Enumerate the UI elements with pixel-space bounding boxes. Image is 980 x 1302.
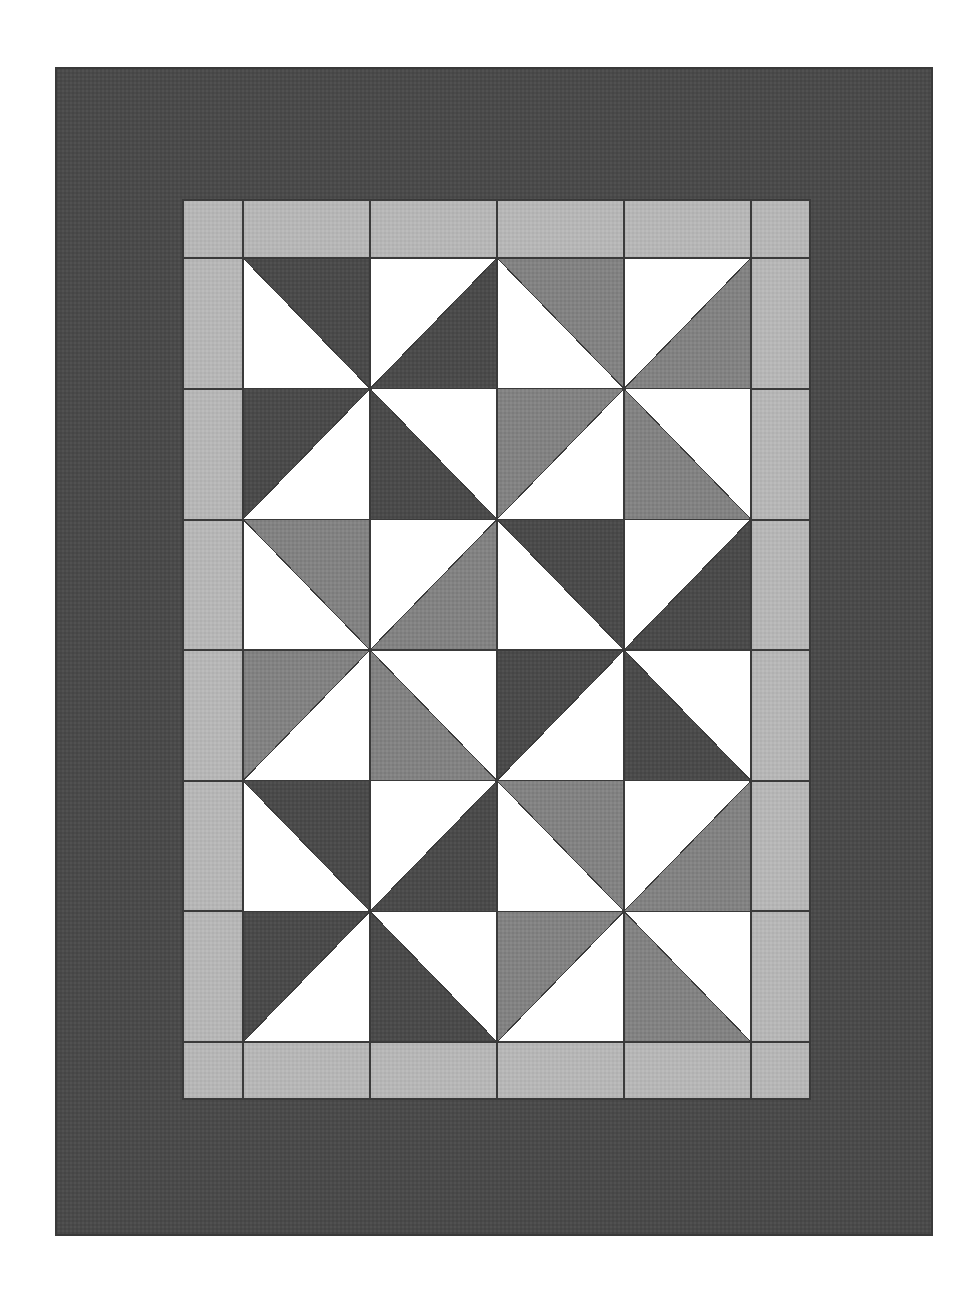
hst-cell bbox=[370, 258, 497, 389]
hst-cell bbox=[497, 519, 624, 650]
hst-cell bbox=[624, 650, 751, 781]
hst-cell bbox=[243, 911, 370, 1042]
hst-cell bbox=[624, 258, 751, 389]
quilt-canvas: Pinwheel Patchwork Quilt quilt-diagram bbox=[0, 0, 980, 1302]
hst-cell bbox=[624, 389, 751, 520]
hst-cell bbox=[243, 781, 370, 912]
hst-cell bbox=[497, 650, 624, 781]
hst-cell bbox=[243, 389, 370, 520]
hst-cell bbox=[497, 911, 624, 1042]
hst-cell bbox=[497, 258, 624, 389]
hst-cell bbox=[370, 650, 497, 781]
hst-cell bbox=[370, 911, 497, 1042]
hst-cell bbox=[243, 519, 370, 650]
hst-cell bbox=[370, 781, 497, 912]
hst-cell bbox=[497, 389, 624, 520]
hst-cell bbox=[243, 650, 370, 781]
hst-cell bbox=[624, 911, 751, 1042]
quilt-diagram bbox=[0, 0, 980, 1302]
hst-cell bbox=[370, 519, 497, 650]
hst-cell bbox=[624, 519, 751, 650]
hst-cell bbox=[624, 781, 751, 912]
hst-cell bbox=[370, 389, 497, 520]
hst-cell bbox=[243, 258, 370, 389]
hst-cell bbox=[497, 781, 624, 912]
